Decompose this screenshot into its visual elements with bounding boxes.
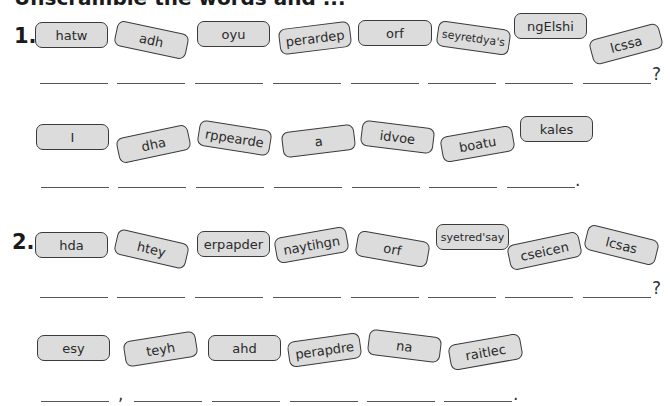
exercise-number-1: 1.	[14, 24, 37, 48]
word-tile[interactable]: lcssa	[588, 22, 664, 66]
answer-blank[interactable]	[195, 297, 263, 298]
period: .	[575, 170, 580, 190]
answer-blank[interactable]	[507, 187, 575, 188]
question-mark: ?	[652, 64, 661, 84]
answer-blank[interactable]	[196, 187, 264, 188]
answer-blank[interactable]	[274, 187, 342, 188]
answer-blank[interactable]	[41, 401, 109, 402]
answer-blank[interactable]	[351, 297, 419, 298]
worksheet-title: Unscramble the words and ...	[14, 0, 346, 10]
answer-blank[interactable]	[41, 187, 109, 188]
word-tile[interactable]: rppearde	[196, 119, 272, 156]
word-tile[interactable]: raitlec	[447, 333, 523, 371]
word-tile[interactable]: oyu	[197, 21, 270, 47]
word-tile[interactable]: naytihgn	[273, 226, 349, 264]
answer-blank[interactable]	[134, 401, 202, 402]
answer-blank[interactable]	[505, 83, 573, 84]
answer-blank[interactable]	[117, 83, 185, 84]
answer-blank[interactable]	[118, 187, 186, 188]
word-tile[interactable]: cseicen	[506, 231, 583, 272]
word-tile[interactable]: perapdre	[287, 332, 363, 368]
word-tile[interactable]: perardep	[278, 21, 353, 56]
answer-blank[interactable]	[212, 401, 280, 402]
word-tile[interactable]: seyretdya's	[436, 20, 512, 56]
word-tile[interactable]: I	[36, 124, 109, 150]
answer-blank[interactable]	[351, 83, 419, 84]
word-tile[interactable]: boatu	[439, 125, 515, 163]
word-tile[interactable]: a	[281, 124, 357, 159]
answer-blank[interactable]	[40, 297, 108, 298]
word-tile[interactable]: orf	[358, 20, 432, 46]
exercise-number-2: 2.	[12, 230, 35, 254]
word-tile[interactable]: teyh	[122, 330, 198, 367]
answer-blank[interactable]	[40, 83, 108, 84]
word-tile[interactable]: esy	[37, 335, 110, 361]
word-tile[interactable]: hatw	[35, 22, 108, 48]
word-tile[interactable]: idvoe	[360, 120, 436, 155]
word-tile[interactable]: hda	[35, 232, 108, 258]
answer-blank[interactable]	[444, 401, 512, 402]
word-tile[interactable]: syetred'say	[436, 224, 509, 250]
word-tile[interactable]: kales	[520, 116, 593, 142]
answer-blank[interactable]	[352, 187, 420, 188]
answer-blank[interactable]	[290, 401, 358, 402]
word-tile[interactable]: na	[367, 329, 443, 364]
answer-blank[interactable]	[428, 83, 496, 84]
period: .	[513, 384, 518, 404]
answer-blank[interactable]	[583, 297, 651, 298]
word-tile[interactable]: dha	[115, 124, 192, 165]
comma: ,	[118, 384, 123, 404]
answer-blank[interactable]	[117, 297, 185, 298]
answer-blank[interactable]	[428, 297, 496, 298]
word-tile[interactable]: htey	[113, 228, 190, 270]
word-tile[interactable]: orf	[354, 230, 430, 268]
answer-blank[interactable]	[273, 297, 341, 298]
answer-blank[interactable]	[505, 297, 573, 298]
word-tile[interactable]: ahd	[208, 335, 281, 361]
answer-blank[interactable]	[367, 401, 435, 402]
word-tile[interactable]: ngElshi	[514, 13, 587, 39]
answer-blank[interactable]	[429, 187, 497, 188]
answer-blank[interactable]	[195, 83, 263, 84]
question-mark: ?	[652, 278, 661, 298]
answer-blank[interactable]	[273, 83, 341, 84]
answer-blank[interactable]	[583, 83, 651, 84]
word-tile[interactable]: adh	[113, 20, 190, 61]
word-tile[interactable]: lcsas	[583, 224, 660, 267]
word-tile[interactable]: erpapder	[197, 231, 270, 257]
